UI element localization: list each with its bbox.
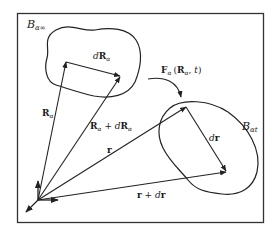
deformation-diagram: Bα∞ Bαt dRα Rα Rα + dRα r r + dr dr Fα(R… xyxy=(0,0,278,235)
R-plus-dR-label: Rα + dRα xyxy=(90,121,132,132)
reference-region-outline xyxy=(46,27,141,97)
dR-label: dRα xyxy=(93,51,110,62)
vector-dR xyxy=(66,62,120,76)
dr-label: dr xyxy=(209,133,220,143)
mapping-label: Fα(Rα, t) xyxy=(161,65,201,76)
vector-dr xyxy=(186,107,226,171)
coordinate-axes-icon xyxy=(26,181,58,212)
mapping-arrow xyxy=(148,78,181,97)
R-label: Rα xyxy=(42,108,54,119)
r-label: r xyxy=(107,145,112,155)
current-region-label: Bαt xyxy=(241,120,258,134)
reference-region-label: Bα∞ xyxy=(26,18,46,32)
vector-r-plus-dr xyxy=(38,172,226,200)
current-region-outline xyxy=(159,102,258,195)
r-plus-dr-label: r + dr xyxy=(137,190,166,200)
